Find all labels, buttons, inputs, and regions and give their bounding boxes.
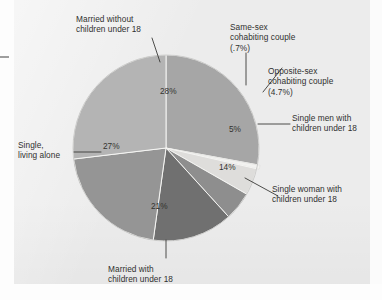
callout-line: Same-sex (230, 22, 295, 32)
callout-line: Single woman with (272, 184, 342, 194)
callout-married-without-children: Married without children under 18 (76, 14, 141, 35)
callout-line: living alone (18, 150, 60, 160)
callout-line: children under 18 (76, 24, 141, 34)
callout-line: Opposite-sex (268, 66, 333, 76)
callout-opposite-sex-cohabiting: Opposite-sex cohabiting couple (4.7%) (268, 66, 333, 97)
callout-line: children under 18 (108, 274, 173, 284)
callout-line: cohabiting couple (230, 32, 295, 42)
callout-line: Single, (18, 140, 60, 150)
callout-line: Married without (76, 14, 141, 24)
pie-chart: Married without children under 18 Same-s… (0, 0, 382, 300)
slice-value-married-with-children: 21% (151, 201, 168, 211)
callout-single-men-with-children: Single men with children under 18 (292, 113, 357, 134)
pie-slices (73, 55, 260, 241)
slice-value-single-woman-with-children: 14% (219, 162, 236, 172)
callout-line: cohabiting couple (268, 76, 333, 86)
callout-same-sex-cohabiting: Same-sex cohabiting couple (.7%) (230, 22, 295, 53)
callout-line: Single men with (292, 113, 357, 123)
callout-married-with-children: Married with children under 18 (108, 264, 173, 285)
slice-married-with-children[interactable] (74, 148, 166, 240)
callout-single-woman-with-children: Single woman with children under 18 (272, 184, 342, 205)
slice-value-single-living-alone: 27% (103, 141, 120, 151)
callout-line: Married with (108, 264, 173, 274)
callout-value: (.7%) (230, 43, 295, 53)
callout-line: children under 18 (272, 194, 342, 204)
callout-single-living-alone: Single, living alone (18, 140, 60, 161)
slice-married-without-children[interactable] (166, 55, 259, 165)
slice-value-single-men-with-children: 5% (229, 124, 241, 134)
callout-line: children under 18 (292, 123, 357, 133)
slice-value-married-without-children: 28% (160, 86, 177, 96)
callout-value: (4.7%) (268, 87, 333, 97)
